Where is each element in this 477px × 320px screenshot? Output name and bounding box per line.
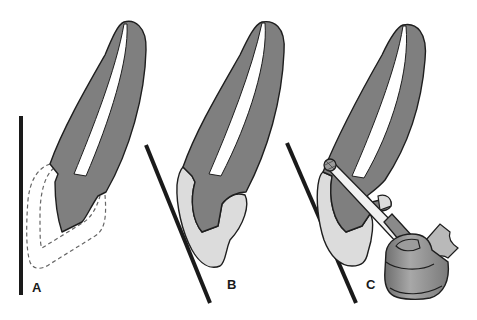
panel-a bbox=[21, 21, 146, 295]
panel-c-label: C bbox=[366, 278, 375, 291]
panel-b bbox=[146, 22, 284, 303]
panel-c bbox=[287, 24, 458, 303]
dental-diagram bbox=[0, 0, 477, 320]
panel-a-label: A bbox=[32, 281, 41, 294]
panel-b-label: B bbox=[227, 278, 236, 291]
